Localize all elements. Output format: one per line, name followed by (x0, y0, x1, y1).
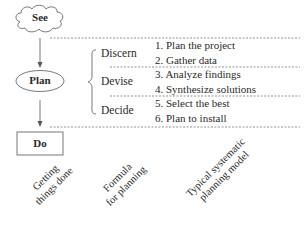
phase-discern: Discern (101, 47, 137, 59)
node-plan: Plan (22, 74, 58, 86)
step-1: 1. Plan the project (155, 39, 235, 51)
phase-decide: Decide (101, 104, 134, 116)
step-3: 3. Analyze findings (155, 68, 241, 80)
brace-icon (88, 50, 96, 114)
node-do: Do (17, 137, 63, 149)
step-2: 2. Gather data (155, 54, 217, 66)
step-6: 6. Plan to install (155, 112, 227, 124)
arrowhead-icon (38, 121, 43, 127)
step-5: 5. Select the best (155, 97, 230, 109)
phase-devise: Devise (101, 75, 133, 87)
node-see: See (25, 11, 55, 23)
arrowhead-icon (38, 62, 43, 68)
step-4: 4. Synthesize solutions (155, 83, 256, 95)
